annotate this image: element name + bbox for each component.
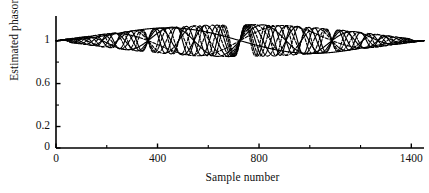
x-tick-label: 800 — [239, 152, 279, 164]
y-tick-label: 0 — [22, 140, 50, 152]
y-axis-label-wrapper: Estimated phasor magnitude — [0, 0, 24, 160]
y-tick-label: 1 — [22, 33, 50, 45]
x-tick-label: 400 — [138, 152, 178, 164]
plot-canvas — [0, 0, 429, 193]
data-series-group — [56, 25, 424, 57]
x-tick-label: 1400 — [391, 152, 429, 164]
x-tick-label: 0 — [36, 152, 76, 164]
y-tick-label: 0.6 — [22, 76, 50, 88]
chart-figure: Estimated phasor magnitude Sample number… — [0, 0, 429, 193]
y-tick-label: 0.2 — [22, 119, 50, 131]
y-axis-label: Estimated phasor magnitude — [8, 0, 20, 94]
x-axis-label: Sample number — [55, 171, 429, 183]
